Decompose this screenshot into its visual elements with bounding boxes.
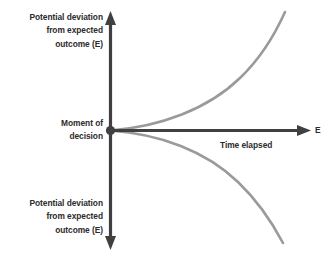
time-elapsed-label: Time elapsed — [220, 139, 272, 152]
moment-of-decision-label: Moment of decision — [8, 117, 103, 144]
lower-deviation-label: Potential deviation from expected outcom… — [8, 197, 103, 237]
y-axis-down-arrowhead — [105, 236, 116, 250]
deviation-funnel-diagram: Potential deviation from expected outcom… — [0, 0, 331, 262]
upper-deviation-label: Potential deviation from expected outcom… — [8, 11, 103, 51]
x-axis-right-arrowhead — [297, 125, 311, 136]
x-axis-symbol-label: E — [315, 124, 321, 137]
upper-divergence-curve — [110, 12, 285, 131]
y-axis-up-arrowhead — [105, 11, 116, 25]
origin-dot — [106, 126, 115, 135]
